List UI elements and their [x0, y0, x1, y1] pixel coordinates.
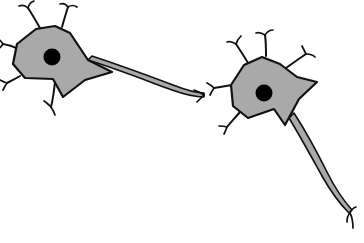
dendrite-stalk	[28, 8, 40, 28]
soma	[231, 57, 317, 125]
neuron-2	[207, 30, 356, 228]
dendrite-fork	[236, 36, 241, 44]
dendrite-stalk	[227, 112, 240, 127]
dendrite	[19, 1, 40, 28]
dendrite-fork	[256, 33, 265, 35]
dendrite-fork	[60, 4, 68, 7]
dendrite	[219, 112, 240, 134]
dendrite	[256, 30, 273, 56]
dendrite-fork	[51, 107, 55, 115]
dendrite-fork	[0, 80, 7, 83]
dendrite	[44, 82, 55, 115]
axon-body	[88, 56, 204, 97]
nucleus	[44, 49, 61, 66]
dendrite-stalk	[236, 44, 248, 63]
dendrite-fork	[306, 54, 315, 57]
dendrite-fork	[227, 42, 236, 44]
dendrite	[0, 76, 20, 90]
dendrite-fork	[44, 101, 51, 107]
dendrite	[60, 4, 77, 27]
dendrite	[227, 36, 248, 63]
neuron-1	[0, 1, 204, 115]
axon-terminal-branch	[350, 213, 353, 228]
neuron-layer	[0, 1, 356, 228]
dendrite-stalk	[3, 44, 16, 48]
neuron-diagram	[0, 0, 364, 243]
axon	[88, 56, 204, 102]
dendrite-stalk	[265, 35, 266, 56]
dendrite-stalk	[62, 7, 68, 27]
dendrite-fork	[302, 46, 306, 54]
dendrite-stalk	[214, 85, 232, 88]
axon-terminal-branch	[347, 213, 350, 222]
dendrite-fork	[0, 39, 3, 44]
nucleus	[256, 85, 273, 102]
dendrite	[0, 39, 16, 49]
dendrite-fork	[219, 126, 227, 127]
axon-body	[289, 113, 352, 213]
dendrite-fork	[19, 5, 28, 8]
dendrite	[286, 46, 315, 68]
dendrite-fork	[68, 6, 77, 8]
dendrite-stalk	[7, 76, 20, 83]
dendrite	[207, 83, 232, 95]
dendrite-fork	[207, 83, 214, 88]
dendrite-fork	[28, 1, 34, 8]
axon	[289, 113, 356, 228]
illustration-canvas	[0, 0, 364, 243]
dendrite-stalk	[286, 54, 306, 68]
dendrite-fork	[224, 127, 227, 134]
dendrite-fork	[3, 83, 7, 90]
dendrite-fork	[210, 88, 214, 95]
dendrite-fork	[265, 30, 273, 35]
dendrite-fork	[0, 44, 3, 49]
dendrite-stalk	[51, 82, 55, 107]
